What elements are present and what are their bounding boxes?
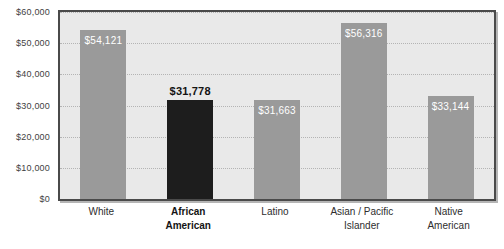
bar-value-label: $54,121 [80, 35, 126, 46]
y-axis-tick-label: $40,000 [16, 69, 50, 79]
plot-area: $54,121$31,778$31,663$56,316$33,144 [60, 12, 494, 199]
x-axis-category-label: Native American [405, 205, 492, 233]
x-axis-category-label: African American [145, 205, 232, 233]
bar-value-label: $56,316 [341, 28, 387, 39]
plot-frame: $54,121$31,778$31,663$56,316$33,144 [58, 10, 496, 201]
bar: $31,663 [254, 100, 300, 199]
y-axis: $60,000$50,000$40,000$30,000$20,000$10,0… [0, 10, 56, 201]
bar: $31,778 [167, 100, 213, 199]
y-axis-tick-label: $10,000 [16, 163, 50, 173]
x-axis-category-label: Asian / Pacific Islander [318, 205, 405, 233]
x-axis-category-label: White [58, 205, 145, 219]
bar-value-label: $31,663 [254, 105, 300, 116]
bar-value-label: $31,778 [167, 85, 213, 97]
x-axis: WhiteAfrican AmericanLatinoAsian / Pacif… [58, 205, 496, 249]
bar: $56,316 [341, 23, 387, 199]
bar: $33,144 [428, 96, 474, 199]
y-axis-tick-label: $30,000 [16, 101, 50, 111]
bar: $54,121 [80, 30, 126, 199]
bar-value-label: $33,144 [428, 101, 474, 112]
bar-chart: $60,000$50,000$40,000$30,000$20,000$10,0… [0, 0, 504, 249]
gridline [60, 12, 494, 13]
x-axis-category-label: Latino [232, 205, 319, 219]
y-axis-tick-label: $60,000 [16, 7, 50, 17]
y-axis-tick-label: $50,000 [16, 38, 50, 48]
y-axis-tick-label: $20,000 [16, 132, 50, 142]
y-axis-tick-label: $0 [40, 194, 50, 204]
